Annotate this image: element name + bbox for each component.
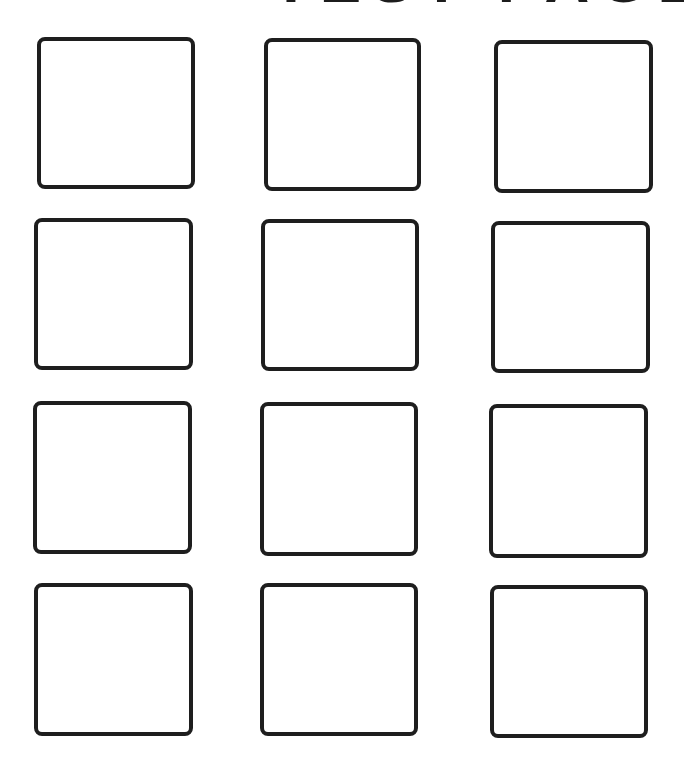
empty-box-r2-c1: [34, 218, 193, 370]
empty-box-r2-c3: [491, 221, 650, 373]
empty-box-r3-c3: [489, 404, 648, 558]
empty-box-r3-c2: [260, 402, 418, 556]
empty-box-r1-c2: [264, 38, 421, 191]
empty-box-r1-c3: [494, 40, 653, 193]
empty-box-r1-c1: [37, 37, 195, 189]
page-heading: TEST PAGE: [272, 0, 672, 12]
empty-box-r4-c1: [34, 583, 193, 736]
empty-box-r4-c2: [260, 583, 418, 736]
empty-box-r3-c1: [33, 401, 192, 554]
empty-box-r2-c2: [261, 219, 419, 371]
empty-box-r4-c3: [490, 585, 648, 738]
